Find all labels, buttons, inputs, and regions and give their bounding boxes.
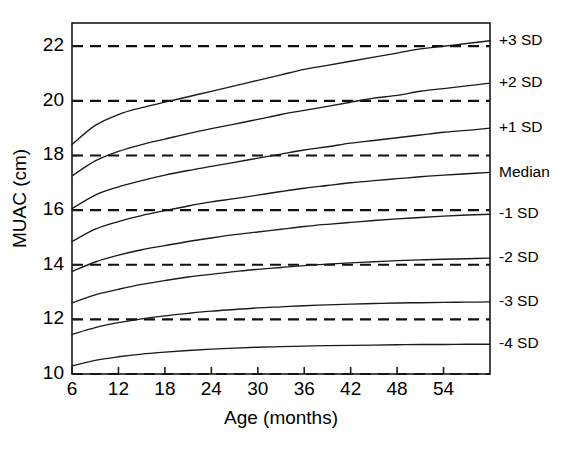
muac-growth-chart: 61218243036424854 10121416182022 +3 SD+2…	[0, 0, 569, 449]
x-axis-tick-labels-group: 61218243036424854	[67, 378, 455, 399]
figure-root: 61218243036424854 10121416182022 +3 SD+2…	[0, 0, 569, 449]
curve-label-plus2-sd: +2 SD	[499, 73, 543, 90]
curve-label-minus1-sd: -1 SD	[499, 204, 539, 221]
sd-curve-minus3-sd	[72, 302, 490, 335]
y-axis-tick-labels-group: 10121416182022	[43, 34, 65, 383]
y-axis-title: MUAC (cm)	[9, 149, 30, 248]
x-tick-label-18: 18	[154, 378, 175, 399]
x-tick-label-12: 12	[108, 378, 129, 399]
x-tick-label-36: 36	[294, 378, 315, 399]
curve-label-plus3-sd: +3 SD	[499, 31, 543, 48]
y-tick-label-22: 22	[43, 34, 64, 55]
curve-label-plus1-sd: +1 SD	[499, 118, 543, 135]
sd-curve-plus1-sd	[72, 128, 490, 209]
x-tick-label-30: 30	[247, 378, 268, 399]
sd-curve-plus2-sd	[72, 83, 490, 176]
sd-curve-minus4-sd	[72, 344, 490, 366]
x-tick-label-6: 6	[67, 378, 78, 399]
x-tick-label-48: 48	[387, 378, 408, 399]
reference-lines-group	[72, 46, 490, 374]
x-axis-title: Age (months)	[224, 407, 338, 428]
curve-labels-group: +3 SD+2 SD+1 SDMedian-1 SD-2 SD-3 SD-4 S…	[499, 31, 550, 351]
y-tick-label-12: 12	[43, 307, 64, 328]
curve-label-median: Median	[499, 163, 550, 180]
plot-area-frame	[72, 23, 490, 374]
y-tick-label-10: 10	[43, 362, 64, 383]
y-tick-label-18: 18	[43, 143, 64, 164]
sd-curve-minus1-sd	[72, 214, 490, 271]
sd-curves-group	[72, 41, 490, 366]
x-tick-label-42: 42	[340, 378, 361, 399]
y-tick-label-20: 20	[43, 89, 64, 110]
y-tick-label-14: 14	[43, 253, 65, 274]
y-axis-ticks-group	[72, 46, 79, 374]
curve-label-minus3-sd: -3 SD	[499, 292, 539, 309]
curve-label-minus4-sd: -4 SD	[499, 334, 539, 351]
sd-curve-plus3-sd	[72, 41, 490, 145]
x-tick-label-54: 54	[433, 378, 455, 399]
x-tick-label-24: 24	[201, 378, 223, 399]
y-tick-label-16: 16	[43, 198, 64, 219]
curve-label-minus2-sd: -2 SD	[499, 248, 539, 265]
